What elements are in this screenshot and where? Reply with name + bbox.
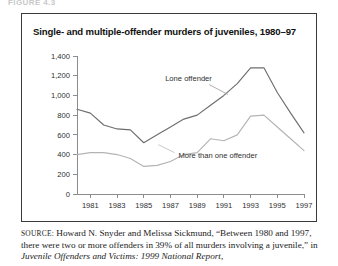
y-tick-label: 800 bbox=[57, 111, 70, 120]
y-tick-label: 1,200 bbox=[51, 71, 70, 80]
chart-annotations: Lone offenderMore than one offender bbox=[158, 74, 257, 159]
source-note: SOURCE: Howard N. Snyder and Melissa Sic… bbox=[21, 228, 321, 263]
running-head: FIGURE 4.3 bbox=[8, 0, 56, 5]
x-tick-label: 1985 bbox=[135, 201, 152, 210]
y-tick-label: 1,000 bbox=[51, 91, 70, 100]
y-tick-label: 0 bbox=[66, 190, 70, 199]
x-tick-label: 1981 bbox=[82, 201, 99, 210]
y-tick-label: 600 bbox=[57, 131, 70, 140]
y-tick-label: 400 bbox=[57, 150, 70, 159]
x-tick-label: 1997 bbox=[296, 201, 313, 210]
chart-plot-area: 02004006008001,0001,2001,400 19811983198… bbox=[22, 48, 318, 222]
x-tick-label: 1989 bbox=[189, 201, 206, 210]
x-tick-label: 1995 bbox=[269, 201, 286, 210]
y-tick-label: 200 bbox=[57, 170, 70, 179]
y-axis: 02004006008001,0001,2001,400 bbox=[51, 52, 77, 199]
annotation-lone-offender: Lone offender bbox=[165, 74, 212, 83]
x-tick-label: 1993 bbox=[242, 201, 259, 210]
x-tick-label: 1991 bbox=[215, 201, 232, 210]
x-tick-label: 1987 bbox=[162, 201, 179, 210]
annotation-more-than-one-offender: More than one offender bbox=[178, 151, 257, 160]
source-italic-title: Juvenile Offenders and Victims: 1999 Nat… bbox=[21, 251, 223, 261]
source-label: SOURCE: bbox=[21, 229, 54, 238]
x-tick-label: 1983 bbox=[109, 201, 126, 210]
figure-title: Single- and multiple-offender murders of… bbox=[33, 26, 313, 37]
source-text: Howard N. Snyder and Melissa Sickmund, “… bbox=[21, 228, 318, 250]
line-chart: 02004006008001,0001,2001,400 19811983198… bbox=[22, 48, 318, 222]
y-tick-label: 1,400 bbox=[51, 52, 70, 61]
x-axis: 198119831985198719891991199319951997 bbox=[77, 194, 312, 210]
figure-box: Single- and multiple-offender murders of… bbox=[21, 13, 317, 222]
